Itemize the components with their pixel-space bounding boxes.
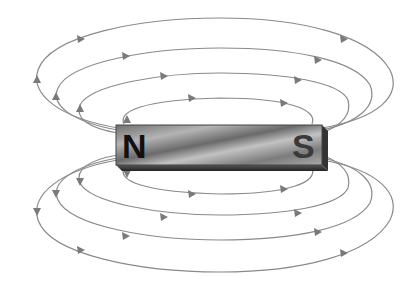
magnet-bottom-face xyxy=(116,165,328,171)
arrow-icon xyxy=(33,75,41,83)
arrow-icon xyxy=(280,99,288,107)
arrow-icon xyxy=(76,178,84,186)
arrow-icon xyxy=(188,190,196,198)
arrow-icon xyxy=(294,76,302,84)
arrow-icon xyxy=(294,209,302,217)
arrow-icon xyxy=(160,72,168,80)
arrow-icon xyxy=(280,185,288,193)
field-line xyxy=(79,73,349,133)
arrow-icon xyxy=(314,228,322,236)
north-pole-label: N xyxy=(122,127,147,165)
arrow-icon xyxy=(160,213,168,221)
arrow-icon xyxy=(33,208,41,216)
bar-magnet: N S xyxy=(116,125,328,171)
upper-field-lines xyxy=(37,18,393,133)
field-line xyxy=(37,160,393,272)
arrow-icon xyxy=(188,94,196,102)
arrow-icon xyxy=(122,232,130,240)
arrow-icon xyxy=(52,190,60,198)
arrow-icon xyxy=(123,170,131,178)
lower-field-lines xyxy=(37,155,393,272)
bar-magnet-diagram: N S xyxy=(0,0,418,290)
magnet-right-face xyxy=(322,125,328,171)
arrow-icon xyxy=(52,92,60,100)
south-pole-label: S xyxy=(292,127,315,165)
arrow-icon xyxy=(122,52,130,60)
arrow-icon xyxy=(76,104,84,112)
arrow-icon xyxy=(340,249,348,257)
